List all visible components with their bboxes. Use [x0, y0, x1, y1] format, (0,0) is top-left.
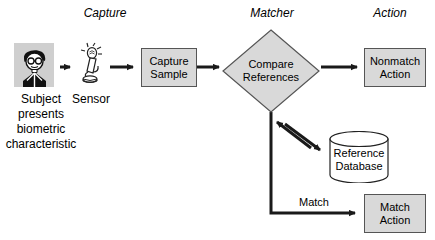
subject-caption-line-1: Subject: [21, 92, 61, 106]
nonmatch-action-line-2: Action: [380, 68, 411, 81]
sensor-caption: Sensor: [60, 92, 122, 107]
subject-caption-line-3: biometric: [17, 122, 66, 136]
reference-database-line-1: Reference: [334, 147, 385, 160]
match-edge-label: Match: [299, 196, 329, 208]
match-action-box[interactable]: Match Action: [364, 194, 426, 233]
arrow-db-to-compare: [277, 122, 311, 148]
capture-sample-line-1: Capture: [149, 55, 188, 68]
compare-references-line-2: References: [243, 71, 299, 84]
fingerprint-sensor-icon: [74, 42, 108, 86]
capture-sample-box[interactable]: Capture Sample: [141, 48, 197, 87]
compare-references-label: Compare References: [221, 28, 321, 114]
compare-references-diamond[interactable]: Compare References: [221, 28, 321, 114]
compare-references-line-1: Compare: [248, 58, 293, 71]
subject-caption-line-4: characteristic: [6, 137, 77, 151]
arrow-compare-to-db: [285, 124, 320, 150]
match-action-line-2: Action: [380, 214, 411, 227]
subject-caption-line-2: presents: [18, 107, 64, 121]
subject-person-icon: [14, 43, 54, 87]
capture-sample-line-2: Sample: [150, 68, 187, 81]
nonmatch-action-box[interactable]: Nonmatch Action: [364, 48, 426, 87]
reference-database-line-2: Database: [335, 160, 382, 173]
reference-database-cylinder[interactable]: Reference Database: [328, 131, 390, 183]
nonmatch-action-line-1: Nonmatch: [370, 55, 420, 68]
reference-database-label: Reference Database: [328, 141, 390, 179]
match-action-line-1: Match: [380, 201, 410, 214]
biometric-flow-diagram: Capture Matcher Action: [0, 0, 435, 240]
